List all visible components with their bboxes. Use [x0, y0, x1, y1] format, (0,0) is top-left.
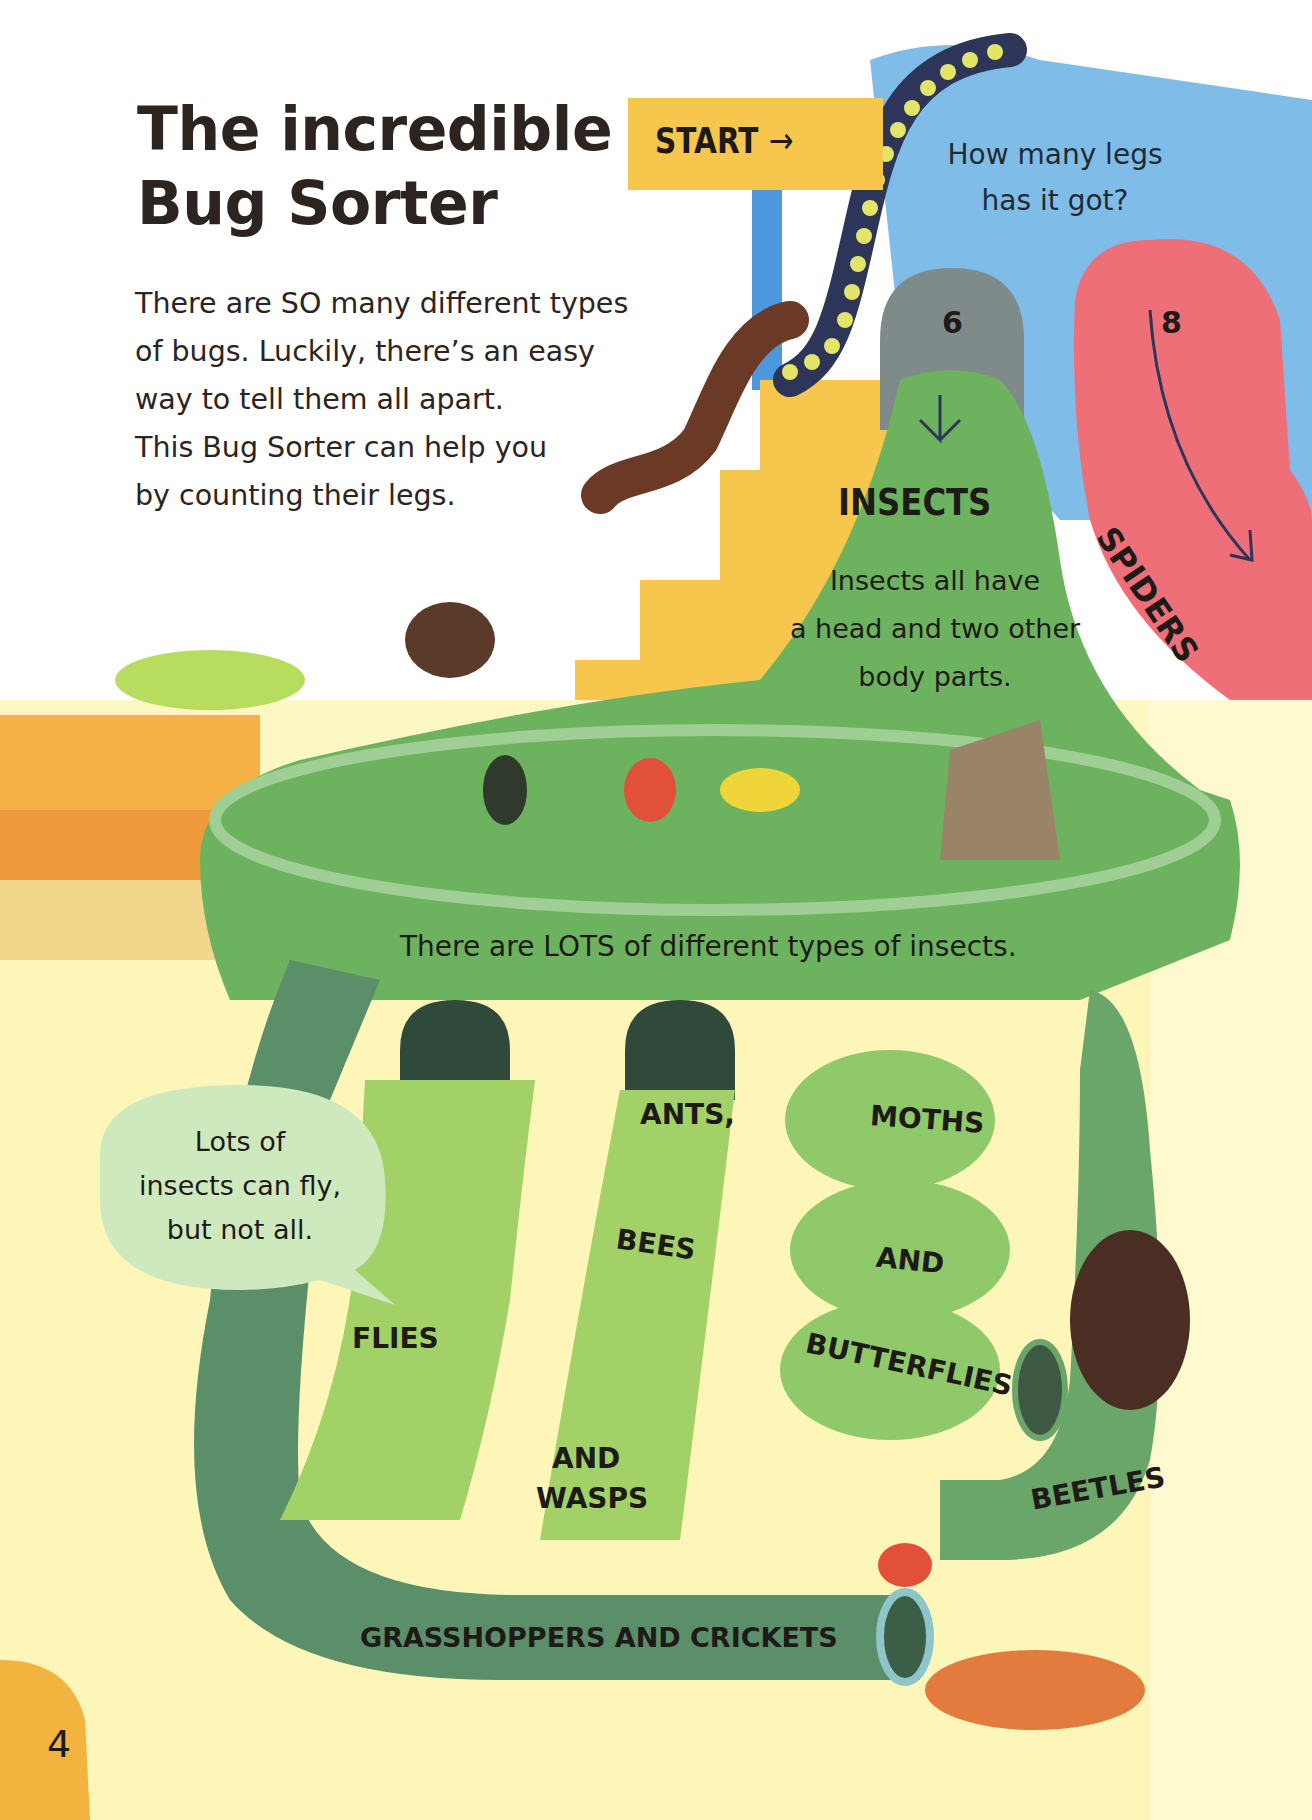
and-label: AND: [874, 1241, 945, 1281]
six-legs-number: 6: [942, 305, 963, 340]
weevil: [405, 602, 495, 678]
bug-sorter-page: The incredible Bug Sorter There are SO m…: [0, 0, 1312, 1820]
insects-heading: INSECTS: [838, 480, 991, 524]
ladybird-in-bowl: [624, 758, 676, 822]
page-number: 4: [47, 1722, 71, 1766]
bug-sorter-illustration: [0, 0, 1312, 1820]
grasshoppers-label: GRASSHOPPERS AND CRICKETS: [360, 1622, 838, 1653]
fly-in-bowl: [483, 755, 527, 825]
arrow-right-icon: →: [769, 120, 794, 161]
insects-description: Insects all have a head and two other bo…: [770, 557, 1100, 701]
wasps-label: WASPS: [536, 1482, 648, 1515]
insects-note: There are LOTS of different types of ins…: [400, 930, 1017, 963]
butterfly: [1070, 1230, 1190, 1410]
wasp-in-bowl: [720, 768, 800, 812]
orange-step: [0, 715, 260, 810]
flies-label: FLIES: [352, 1322, 439, 1355]
cricket: [925, 1650, 1145, 1730]
legs-question: How many legs has it got?: [935, 132, 1175, 224]
ants-label: ANTS,: [640, 1098, 735, 1131]
eight-legs-number: 8: [1161, 305, 1182, 340]
page-title: The incredible Bug Sorter: [137, 92, 612, 240]
start-label: START →: [655, 120, 794, 161]
green-grasshopper: [115, 650, 305, 710]
speech-bubble-text: Lots of insects can fly, but not all.: [130, 1120, 350, 1252]
intro-paragraph: There are SO many different types of bug…: [135, 280, 628, 520]
and-wasps-label-1: AND: [552, 1442, 620, 1475]
orange-stripe: [0, 810, 220, 880]
ladybird-near-tube: [878, 1543, 932, 1587]
